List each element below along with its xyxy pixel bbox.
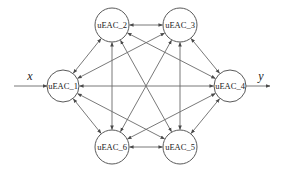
input-label-x: x	[26, 69, 33, 83]
node-ueac-4: uEAC_4	[214, 70, 246, 102]
node-label: uEAC_6	[97, 142, 127, 152]
node-ueac-2: uEAC_2	[95, 8, 129, 42]
node-ueac-1: uEAC_1	[47, 70, 79, 102]
output-label-y: y	[257, 69, 264, 83]
node-label: uEAC_4	[215, 81, 246, 91]
edges-layer	[73, 25, 219, 147]
node-label: uEAC_5	[165, 142, 195, 152]
node-label: uEAC_1	[48, 81, 78, 91]
node-label: uEAC_3	[165, 20, 195, 30]
diagram-canvas: x y uEAC_1uEAC_2uEAC_3uEAC_4uEAC_5uEAC_6	[0, 0, 283, 174]
node-ueac-6: uEAC_6	[95, 130, 129, 164]
node-label: uEAC_2	[97, 20, 127, 30]
node-ueac-5: uEAC_5	[163, 130, 197, 164]
node-ueac-3: uEAC_3	[163, 8, 197, 42]
